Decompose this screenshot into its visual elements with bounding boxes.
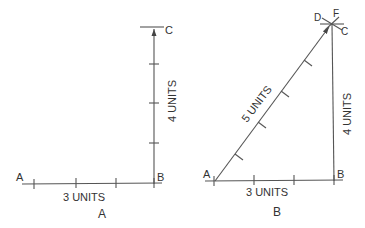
tick <box>281 91 289 97</box>
point-c-label: C <box>165 24 173 36</box>
hypotenuse-ac <box>215 27 329 181</box>
baseline-ab <box>22 183 162 184</box>
point-a-label: A <box>203 168 211 180</box>
diagram-canvas: A B C 3 UNITS A 4 UNITS A B C D F 3 UNIT… <box>0 0 365 228</box>
hypotenuse-length-label: 5 UNITS <box>239 83 274 124</box>
horizontal-length-label: 3 UNITS <box>246 186 288 198</box>
horizontal-length-label: 3 UNITS <box>63 191 105 203</box>
point-b-label: B <box>337 168 344 180</box>
figure-a <box>22 27 164 189</box>
figure-a-caption: A <box>98 207 106 221</box>
point-a-label: A <box>16 171 24 183</box>
point-f-label: F <box>333 8 339 19</box>
vertical-length-label: 4 UNITS <box>166 80 178 122</box>
tick <box>258 122 266 128</box>
point-d-label: D <box>314 12 321 23</box>
vertical-length-label: 4 UNITS <box>341 93 353 135</box>
baseline-ab <box>205 180 343 181</box>
vertical-bc <box>332 24 334 181</box>
tick <box>304 60 312 66</box>
tick <box>235 154 243 160</box>
point-c-label: C <box>341 26 348 37</box>
point-b-label: B <box>157 171 164 183</box>
figure-b <box>205 17 344 186</box>
figure-b-caption: B <box>273 205 281 219</box>
